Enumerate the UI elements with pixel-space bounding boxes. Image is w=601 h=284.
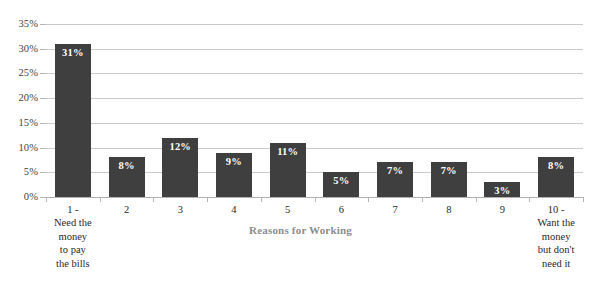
bar: 8% — [109, 157, 145, 197]
y-tick-mark — [40, 24, 46, 25]
y-tick-label: 5% — [4, 167, 38, 178]
gridline — [46, 123, 583, 124]
bar-value-label: 3% — [484, 185, 520, 196]
y-tick-label: 30% — [4, 43, 38, 54]
x-tick-mark — [46, 197, 47, 202]
y-tick-mark — [40, 148, 46, 149]
bar-value-label: 31% — [55, 47, 91, 58]
bar-chart: 31%8%12%9%11%5%7%7%3%8% 0%5%10%15%20%25%… — [0, 0, 601, 284]
x-tick-mark — [422, 197, 423, 202]
bar: 7% — [431, 162, 467, 197]
x-tick-mark — [476, 197, 477, 202]
x-tick-mark — [153, 197, 154, 202]
bar-value-label: 9% — [216, 156, 252, 167]
bar-value-label: 8% — [538, 160, 574, 171]
y-tick-mark — [40, 98, 46, 99]
x-tick-mark — [529, 197, 530, 202]
x-tick-mark — [583, 197, 584, 202]
y-tick-label: 0% — [4, 192, 38, 203]
gridline — [46, 148, 583, 149]
x-tick-mark — [261, 197, 262, 202]
y-tick-mark — [40, 73, 46, 74]
chart-title — [0, 0, 601, 3]
y-tick-mark — [40, 49, 46, 50]
gridline — [46, 24, 583, 25]
bar: 3% — [484, 182, 520, 197]
gridline — [46, 49, 583, 50]
bar-value-label: 5% — [323, 175, 359, 186]
bar-value-label: 7% — [377, 165, 413, 176]
x-category-label: 10 - Want the money but don't need it — [523, 203, 589, 270]
y-tick-mark — [40, 172, 46, 173]
bar: 31% — [55, 44, 91, 197]
bar-value-label: 11% — [270, 146, 306, 157]
y-tick-label: 15% — [4, 118, 38, 129]
bar: 7% — [377, 162, 413, 197]
bar-value-label: 8% — [109, 160, 145, 171]
bar-value-label: 7% — [431, 165, 467, 176]
bar: 9% — [216, 153, 252, 197]
gridline — [46, 98, 583, 99]
x-tick-mark — [315, 197, 316, 202]
bar: 12% — [162, 138, 198, 197]
y-tick-mark — [40, 123, 46, 124]
x-tick-mark — [207, 197, 208, 202]
bar: 8% — [538, 157, 574, 197]
bar: 11% — [270, 143, 306, 197]
y-tick-label: 10% — [4, 142, 38, 153]
bar: 5% — [323, 172, 359, 197]
plot-area: 31%8%12%9%11%5%7%7%3%8% — [46, 24, 583, 197]
gridline — [46, 73, 583, 74]
x-tick-mark — [100, 197, 101, 202]
y-tick-label: 25% — [4, 68, 38, 79]
x-axis-title: Reasons for Working — [0, 224, 601, 236]
y-tick-label: 35% — [4, 19, 38, 30]
y-tick-label: 20% — [4, 93, 38, 104]
bar-value-label: 12% — [162, 141, 198, 152]
x-tick-mark — [368, 197, 369, 202]
